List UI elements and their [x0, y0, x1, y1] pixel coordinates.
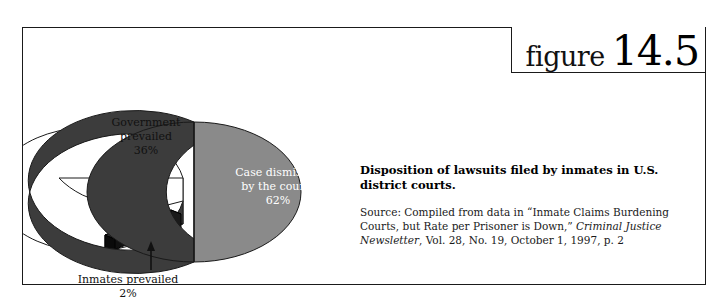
slice-label-dismissed: Case dismissed by the courts 62% — [208, 166, 348, 208]
figure-number-banner: figure 14.5 — [511, 27, 705, 73]
caption-source: Source: Compiled from data in “Inmate Cl… — [360, 205, 690, 247]
slice-label-dismissed-value: 62% — [208, 194, 348, 208]
slice-label-inmates-value: 2% — [43, 287, 213, 301]
caption-title: Disposition of lawsuits filed by inmates… — [360, 163, 690, 193]
pie-chart: Government prevailed 36% Case dismissed … — [23, 38, 368, 286]
slice-label-government-value: 36% — [86, 144, 206, 158]
slice-label-inmates: Inmates prevailed 2% — [43, 273, 213, 301]
caption-block: Disposition of lawsuits filed by inmates… — [360, 163, 690, 247]
slice-label-government: Government prevailed 36% — [86, 116, 206, 158]
slice-label-inmates-line1: Inmates prevailed — [43, 273, 213, 287]
figure-number-value: 14.5 — [612, 30, 699, 72]
slice-label-dismissed-line1: Case dismissed — [208, 166, 348, 180]
pie-chart-graphic — [23, 38, 368, 286]
slice-label-government-line2: prevailed — [86, 130, 206, 144]
caption-source-suffix: , Vol. 28, No. 19, October 1, 1997, p. 2 — [419, 234, 624, 246]
slice-label-government-line1: Government — [86, 116, 206, 130]
figure-frame: figure 14.5 — [22, 27, 706, 285]
slice-label-dismissed-line2: by the courts — [208, 180, 348, 194]
figure-word-label: figure — [526, 42, 605, 72]
